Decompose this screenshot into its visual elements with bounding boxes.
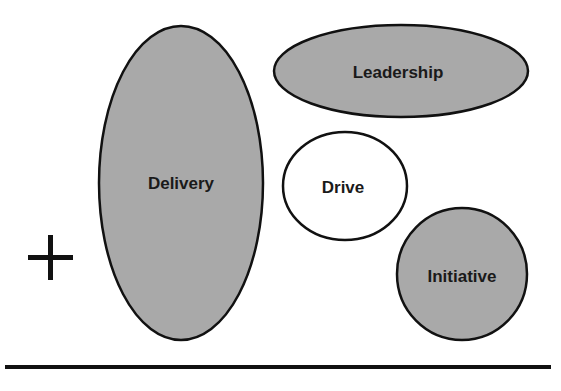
drive-label: Drive bbox=[322, 178, 365, 197]
initiative-label: Initiative bbox=[428, 267, 497, 286]
plus-icon bbox=[28, 235, 73, 280]
competency-diagram: Delivery Leadership Drive Initiative bbox=[0, 0, 561, 391]
delivery-label: Delivery bbox=[148, 174, 215, 193]
leadership-shape: Leadership bbox=[274, 25, 528, 117]
baseline-divider bbox=[5, 365, 551, 369]
initiative-shape: Initiative bbox=[397, 208, 527, 340]
drive-shape: Drive bbox=[283, 132, 407, 240]
delivery-shape: Delivery bbox=[99, 26, 263, 340]
leadership-label: Leadership bbox=[353, 63, 444, 82]
